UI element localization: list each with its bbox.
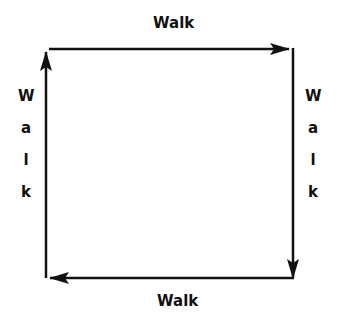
top-walk-label: Walk bbox=[153, 16, 194, 31]
bottom-walk-label: Walk bbox=[157, 294, 198, 309]
left-letter: W bbox=[18, 89, 34, 104]
left-letter: a bbox=[18, 121, 34, 136]
right-letter: W bbox=[305, 89, 321, 104]
walk-cycle-diagram bbox=[0, 0, 337, 325]
left-letter: l bbox=[18, 153, 34, 168]
left-letter: k bbox=[18, 185, 34, 200]
right-letter: k bbox=[305, 185, 321, 200]
right-letter: a bbox=[305, 121, 321, 136]
right-letter: l bbox=[305, 153, 321, 168]
